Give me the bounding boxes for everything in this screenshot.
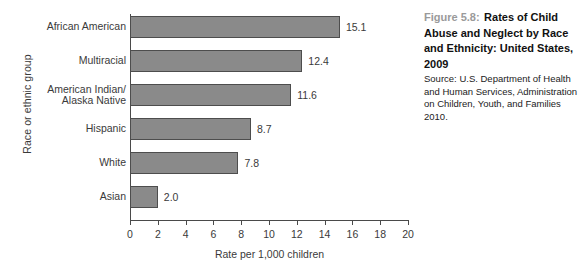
bar [130,186,158,208]
bar [130,152,238,174]
x-tick-label: 16 [340,228,364,240]
bar-value-label: 15.1 [346,16,366,38]
x-tick-label: 6 [201,228,225,240]
x-tick [269,220,270,225]
bar [130,118,251,140]
x-tick-label: 0 [118,228,142,240]
x-tick-label: 8 [229,228,253,240]
figure-caption: Figure 5.8: Rates of Child Abuse and Neg… [424,9,584,123]
x-tick-label: 4 [174,228,198,240]
bar [130,16,340,38]
bar-chart: Race or ethnic group African AmericanMul… [0,0,418,276]
x-tick [297,220,298,225]
figure-container: Race or ethnic group African AmericanMul… [0,0,588,276]
x-tick-label: 2 [146,228,170,240]
x-tick-label: 20 [396,228,420,240]
x-tick-label: 12 [285,228,309,240]
x-tick [186,220,187,225]
category-label: White [20,157,126,169]
bar-value-label: 7.8 [244,152,259,174]
x-tick-label: 18 [368,228,392,240]
x-tick [352,220,353,225]
bar [130,84,291,106]
x-tick-label: 14 [313,228,337,240]
x-tick [158,220,159,225]
category-label: American Indian/ Alaska Native [20,84,126,107]
x-tick [325,220,326,225]
bar [130,50,302,72]
plot-area: 15.112.411.68.77.82.0 [130,14,408,220]
category-label: Hispanic [20,123,126,135]
x-tick [130,220,131,225]
caption-source: Source: U.S. Department of Health and Hu… [424,73,584,123]
x-tick [380,220,381,225]
x-tick-label: 10 [257,228,281,240]
category-label: Asian [20,191,126,203]
bar-value-label: 8.7 [257,118,272,140]
x-tick [241,220,242,225]
bar-value-label: 2.0 [164,186,179,208]
bar-value-label: 11.6 [297,84,317,106]
category-label: Multiracial [20,55,126,67]
x-tick [408,220,409,225]
x-tick [213,220,214,225]
category-label: African American [20,21,126,33]
bar-value-label: 12.4 [308,50,328,72]
x-axis-title: Rate per 1,000 children [130,248,409,260]
category-axis-labels: African AmericanMultiracialAmerican Indi… [20,14,126,220]
caption-heading: Figure 5.8: Rates of Child Abuse and Neg… [424,9,584,71]
caption-figure-number: Figure 5.8: [424,11,480,23]
